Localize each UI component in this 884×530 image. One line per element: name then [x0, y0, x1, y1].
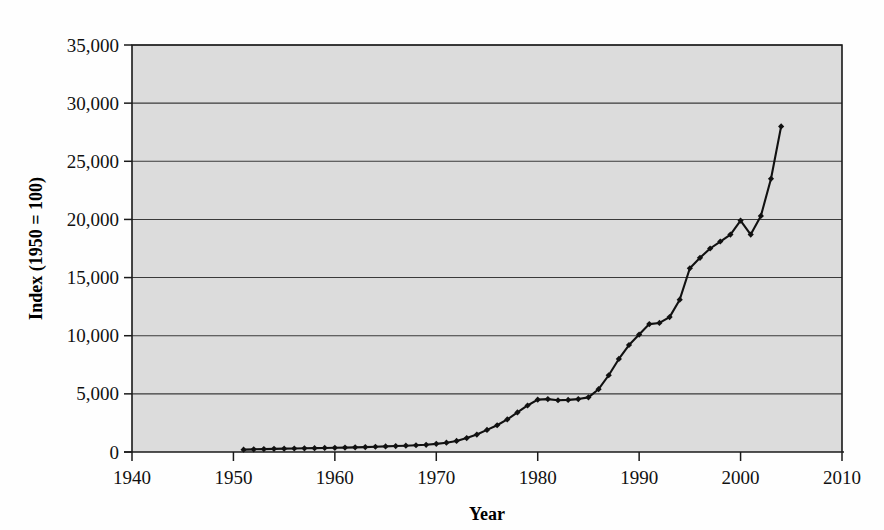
- ytick-label: 20,000: [67, 209, 119, 230]
- line-chart: 05,00010,00015,00020,00025,00030,00035,0…: [0, 0, 884, 530]
- ytick-label: 0: [110, 442, 120, 463]
- xtick-label: 1940: [113, 467, 151, 488]
- xtick-label: 2000: [722, 467, 760, 488]
- xtick-label: 1960: [316, 467, 354, 488]
- x-axis-title: Year: [469, 504, 505, 524]
- ytick-label: 30,000: [67, 93, 119, 114]
- ytick-label: 35,000: [67, 35, 119, 56]
- xtick-label: 1950: [214, 467, 252, 488]
- chart-figure: 05,00010,00015,00020,00025,00030,00035,0…: [0, 0, 884, 530]
- plot-area-background: [132, 45, 842, 452]
- xtick-label: 1980: [519, 467, 557, 488]
- ytick-label: 5,000: [76, 383, 119, 404]
- ytick-label: 25,000: [67, 151, 119, 172]
- xtick-label: 2010: [823, 467, 861, 488]
- xtick-label: 1990: [620, 467, 658, 488]
- y-axis-title: Index (1950 = 100): [26, 177, 47, 320]
- xtick-label: 1970: [417, 467, 455, 488]
- ytick-label: 10,000: [67, 325, 119, 346]
- ytick-label: 15,000: [67, 267, 119, 288]
